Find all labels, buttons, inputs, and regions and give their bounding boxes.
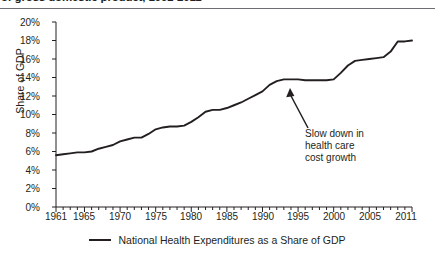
chart-legend: National Health Expenditures as a Share … <box>0 234 435 246</box>
slowdown-annotation: Slow down in health care cost growth <box>305 128 364 165</box>
y-tick-marks <box>52 22 56 207</box>
annotation-line-3: cost growth <box>305 152 364 164</box>
axis-lines <box>56 22 412 207</box>
annotation-arrow <box>286 88 308 128</box>
x-tick-marks <box>56 207 412 212</box>
annotation-line-1: Slow down in <box>305 128 364 140</box>
legend-label: National Health Expenditures as a Share … <box>118 234 345 246</box>
plot-area <box>0 0 435 256</box>
annotation-line-2: health care <box>305 140 364 152</box>
chart-figure: of gross domestic product, 1961-2011 Sha… <box>0 0 435 256</box>
legend-line-swatch <box>89 239 111 241</box>
